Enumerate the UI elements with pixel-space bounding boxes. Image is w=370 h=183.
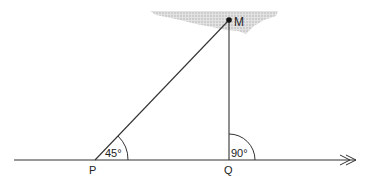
line-PM xyxy=(95,20,229,160)
angle-label-P: 45° xyxy=(105,147,122,159)
label-Q: Q xyxy=(224,164,233,176)
diagram-canvas: M P Q 45° 90° xyxy=(0,0,370,183)
label-M: M xyxy=(234,15,244,29)
point-M xyxy=(226,17,232,23)
angle-label-Q: 90° xyxy=(231,147,248,159)
label-P: P xyxy=(89,164,96,176)
shaded-region xyxy=(150,11,278,34)
